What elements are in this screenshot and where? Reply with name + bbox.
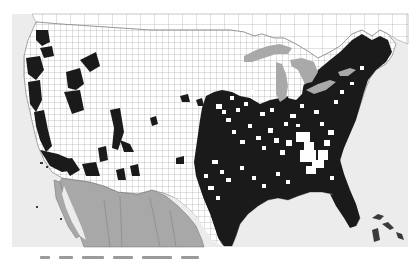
figure-caption-clipped	[40, 252, 300, 261]
county-map	[0, 0, 420, 261]
county-map-figure	[0, 0, 420, 261]
